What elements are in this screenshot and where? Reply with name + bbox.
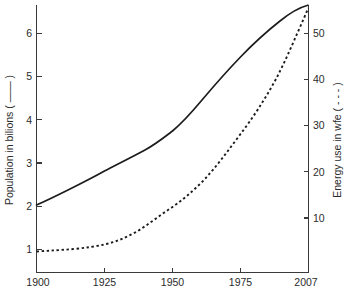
bottom-tick-label: 1925 (93, 276, 117, 288)
left-tick-label: 3 (26, 157, 32, 169)
chart-figure: 1 2 3 4 5 6 10 20 30 40 50 (0, 0, 352, 305)
right-tick-label: 30 (313, 119, 325, 131)
left-tick-label: 4 (26, 114, 32, 126)
left-tick-label: 5 (26, 70, 32, 82)
left-axis-tick-labels: 1 2 3 4 5 6 (26, 27, 32, 255)
bottom-axis-tick-labels: 1900 1925 1950 1975 2007 (26, 276, 318, 288)
left-tick-label: 6 (26, 27, 32, 39)
left-tick-label: 2 (26, 200, 32, 212)
chart-canvas: 1 2 3 4 5 6 10 20 30 40 50 (0, 0, 352, 305)
right-tick-label: 10 (313, 212, 325, 224)
left-axis-title: Population in bilions ( —— ) (3, 75, 15, 205)
bottom-tick-label: 1900 (26, 276, 50, 288)
series-energy-line (37, 8, 309, 251)
bottom-tick-label: 2007 (294, 276, 318, 288)
right-tick-label: 20 (313, 166, 325, 178)
left-axis-ticks (37, 33, 42, 249)
right-tick-label: 50 (313, 27, 325, 39)
bottom-axis-ticks (37, 268, 309, 273)
right-axis-ticks (304, 33, 309, 218)
bottom-tick-label: 1950 (161, 276, 185, 288)
left-tick-label: 1 (26, 243, 32, 255)
right-axis-title: Energy use in wfe ( - - - ) (331, 82, 343, 198)
series-population-line (37, 5, 308, 205)
bottom-tick-label: 1975 (229, 276, 253, 288)
right-axis-tick-labels: 10 20 30 40 50 (313, 27, 325, 224)
right-tick-label: 40 (313, 73, 325, 85)
